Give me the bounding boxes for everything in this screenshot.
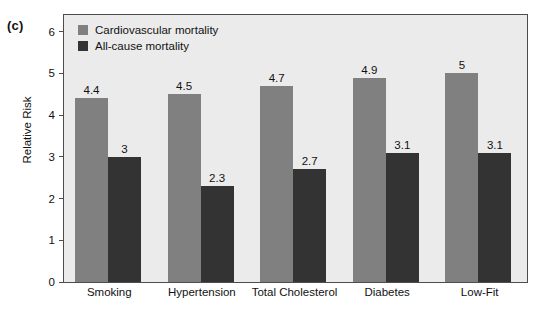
y-axis-title: Relative Risk	[21, 60, 33, 200]
y-tick-label: 6	[49, 26, 55, 38]
x-axis-labels: SmokingHypertensionTotal CholesterolDiab…	[63, 286, 528, 308]
bar: 2.7	[293, 169, 326, 282]
bar: 5	[445, 73, 478, 282]
y-tick-label: 0	[49, 276, 55, 288]
y-tick-label: 5	[49, 67, 55, 79]
bar-group: 53.1	[434, 15, 527, 282]
bar: 4.5	[168, 94, 201, 282]
y-tick-4: 4	[4, 109, 64, 121]
y-tick-5: 5	[4, 67, 64, 79]
x-axis-label: Smoking	[87, 286, 132, 298]
x-axis-label: Hypertension	[168, 286, 236, 298]
bar-group: 4.93.1	[342, 15, 435, 282]
bar-value-label: 3.1	[478, 139, 511, 153]
bar-value-label: 4.5	[168, 80, 201, 94]
y-tick-label: 2	[49, 193, 55, 205]
bar-group: 4.43	[64, 15, 157, 282]
y-tick-1: 1	[4, 234, 64, 246]
y-tick-label: 3	[49, 151, 55, 163]
y-tick-0: 0	[4, 276, 64, 288]
y-tick-6: 6	[4, 26, 64, 38]
x-axis-label: Total Cholesterol	[252, 286, 338, 298]
bar-group: 4.52.3	[157, 15, 250, 282]
bar-value-label: 3.1	[386, 139, 419, 153]
bar-value-label: 2.7	[293, 155, 326, 169]
y-tick-label: 1	[49, 234, 55, 246]
bar: 3	[108, 157, 141, 282]
x-axis-label: Diabetes	[364, 286, 409, 298]
bar-value-label: 5	[445, 59, 478, 73]
plot-area: 0123456 Cardiovascular mortalityAll-caus…	[63, 14, 528, 283]
bar: 4.7	[260, 86, 293, 282]
bar: 3.1	[478, 153, 511, 282]
bar-value-label: 3	[108, 143, 141, 157]
bar-group: 4.72.7	[249, 15, 342, 282]
y-tick-3: 3	[4, 151, 64, 163]
bar-value-label: 4.7	[260, 72, 293, 86]
y-tick-label: 4	[49, 109, 55, 121]
bar: 4.4	[75, 98, 108, 282]
bar-value-label: 2.3	[201, 172, 234, 186]
bars-layer: 4.434.52.34.72.74.93.153.1	[64, 15, 527, 282]
bar-value-label: 4.9	[353, 64, 386, 78]
bar: 2.3	[201, 186, 234, 282]
bar: 4.9	[353, 78, 386, 282]
x-axis-label: Low-Fit	[461, 286, 499, 298]
bar-value-label: 4.4	[75, 84, 108, 98]
y-tick-2: 2	[4, 193, 64, 205]
bar: 3.1	[386, 153, 419, 282]
